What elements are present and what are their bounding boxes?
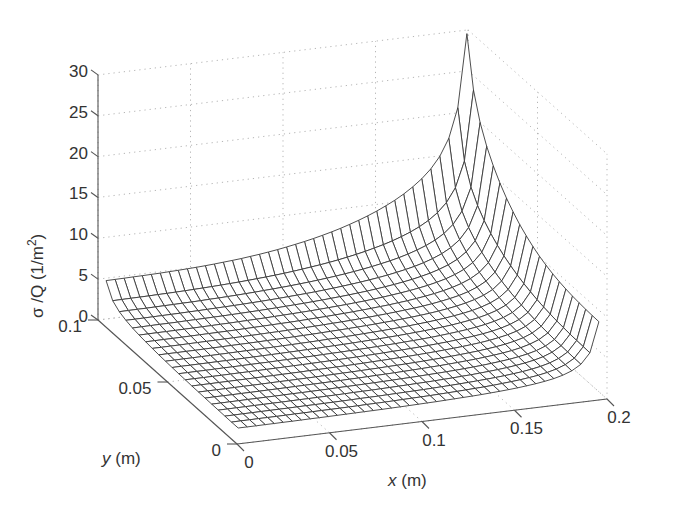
y-tick-label: 0.1 [58, 317, 82, 336]
z-tick-label: 15 [69, 184, 88, 203]
x-tick [237, 444, 244, 451]
z-tick [91, 274, 98, 279]
x-tick-label: 0.15 [510, 419, 543, 438]
y-tick-label: 0.05 [118, 379, 151, 398]
z-tick [91, 111, 98, 116]
z-tick-label: 30 [69, 62, 88, 81]
z-tick-label: 10 [69, 225, 88, 244]
z-tick [91, 315, 98, 320]
grid-line [98, 71, 468, 116]
z-axis-label: σ /Q (1/m2) [25, 234, 47, 318]
z-tick-label: 25 [69, 103, 88, 122]
y-tick-label: 0 [212, 441, 221, 460]
x-tick-label: 0.1 [422, 431, 446, 450]
surface-mesh [106, 34, 599, 428]
z-tick [91, 152, 98, 157]
x-tick [422, 422, 429, 429]
z-tick [91, 192, 98, 197]
grid-line [98, 112, 468, 157]
surface-plot: 05101520253000.050.10.150.200.050.1 σ /Q… [0, 0, 676, 514]
x-tick-label: 0.05 [325, 442, 358, 461]
y-axis-label: y (m) [101, 449, 141, 468]
x-tick [607, 399, 614, 406]
z-tick-label: 20 [69, 144, 88, 163]
x-tick-label: 0 [244, 453, 253, 472]
z-tick [91, 70, 98, 75]
z-tick [91, 233, 98, 238]
x-tick [330, 433, 337, 440]
x-tick [515, 410, 522, 417]
x-tick-label: 0.2 [607, 408, 631, 427]
x-axis-label: x (m) [387, 471, 427, 490]
z-tick-label: 5 [79, 266, 88, 285]
